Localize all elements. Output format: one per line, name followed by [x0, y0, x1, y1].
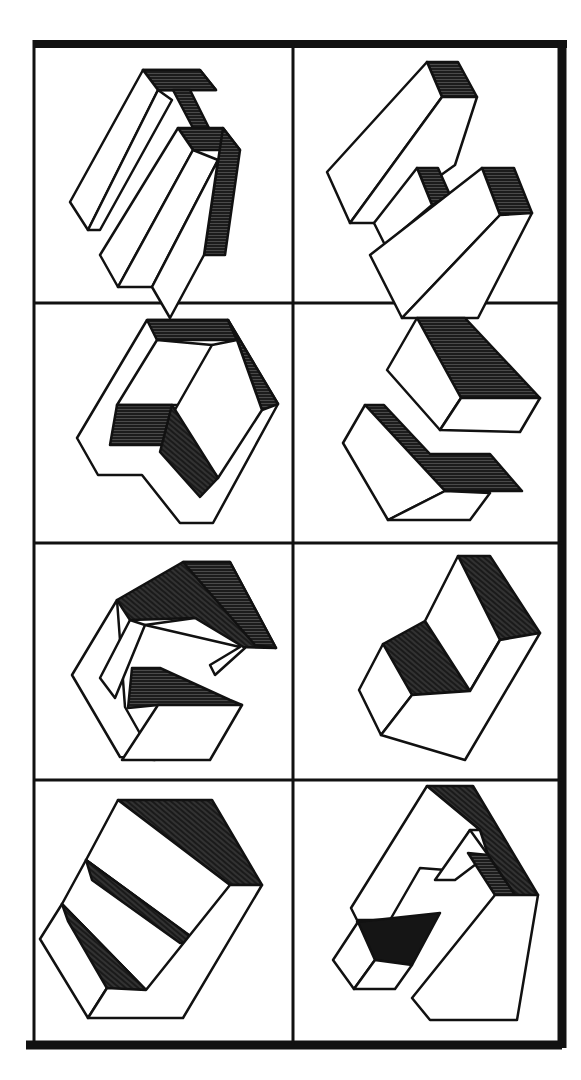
isometric-blocks-figure — [0, 0, 581, 1080]
figure-sheet — [0, 0, 581, 1080]
